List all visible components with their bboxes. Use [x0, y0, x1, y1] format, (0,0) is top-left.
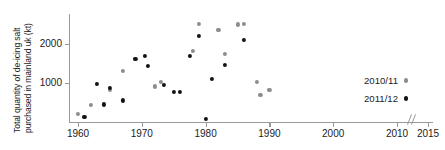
data-point — [172, 90, 176, 94]
legend-marker-gray-dot-icon — [404, 78, 408, 82]
legend-marker-black-dot-icon — [404, 96, 408, 100]
data-point — [210, 77, 214, 81]
data-point — [95, 82, 99, 86]
data-point — [146, 64, 150, 68]
data-point — [188, 54, 192, 58]
data-point — [204, 117, 208, 121]
data-point — [242, 38, 246, 42]
data-point — [267, 88, 271, 92]
legend-label: 2011/12 — [364, 93, 398, 104]
data-point — [197, 34, 201, 38]
data-point — [89, 103, 93, 107]
data-point — [223, 62, 227, 66]
data-point — [152, 84, 156, 88]
chart-legend: 2010/11 2011/12 — [364, 74, 442, 110]
data-point — [133, 57, 137, 61]
data-point — [101, 102, 105, 106]
data-point — [235, 22, 239, 26]
data-point — [178, 90, 182, 94]
data-point — [242, 22, 246, 26]
data-point — [216, 28, 220, 32]
data-point — [121, 69, 125, 73]
data-point — [255, 80, 259, 84]
data-point — [197, 22, 201, 26]
data-point — [121, 98, 125, 102]
legend-entry-2011-12: 2011/12 — [364, 92, 408, 105]
data-point — [82, 115, 86, 119]
data-point — [191, 49, 195, 53]
legend-entry-2010-11: 2010/11 — [364, 74, 408, 87]
data-point — [143, 54, 147, 58]
data-point — [162, 83, 166, 87]
data-point — [76, 112, 80, 116]
legend-label: 2010/11 — [364, 75, 398, 86]
scatter-chart: Total quantity of de-icing salt purchase… — [0, 0, 445, 150]
data-point — [223, 52, 227, 56]
data-point — [258, 93, 262, 97]
